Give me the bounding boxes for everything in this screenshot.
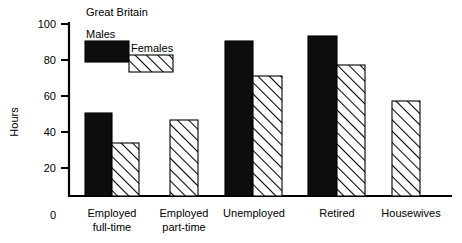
bar-females-employed-part-time	[170, 120, 198, 196]
legend-label-males: Males	[86, 28, 116, 40]
bar-males-employed-full-time	[85, 113, 112, 196]
bar-chart: Great Britain 100 80 60 40 20 0 Hours Ma…	[0, 0, 462, 243]
chart-svg: Great Britain 100 80 60 40 20 0 Hours Ma…	[0, 0, 462, 243]
legend-swatch-females	[129, 55, 173, 72]
cat-label-employed-part-time-line2: part-time	[162, 221, 205, 233]
cat-label-retired: Retired	[319, 207, 354, 219]
chart-title: Great Britain	[86, 6, 148, 18]
legend-swatch-males	[85, 41, 129, 62]
bar-females-employed-full-time	[112, 143, 139, 196]
y-tick-label-60: 60	[44, 90, 56, 102]
bar-females-housewives	[392, 101, 420, 196]
bar-females-unemployed	[253, 76, 282, 196]
bar-males-retired	[308, 36, 337, 196]
y-tick-label-40: 40	[44, 126, 56, 138]
bar-group-employed-part-time	[170, 120, 198, 196]
bar-group-housewives	[392, 101, 420, 196]
cat-label-unemployed: Unemployed	[223, 207, 285, 219]
y-tick-label-80: 80	[44, 54, 56, 66]
cat-label-employed-full-time-line2: full-time	[93, 221, 132, 233]
y-axis-title: Hours	[8, 107, 20, 137]
y-tick-label-20: 20	[44, 162, 56, 174]
bar-males-unemployed	[225, 41, 253, 196]
cat-label-housewives: Housewives	[381, 207, 441, 219]
cat-label-employed-part-time-line1: Employed	[160, 207, 209, 219]
cat-label-employed-full-time-line1: Employed	[88, 207, 137, 219]
y-tick-label-100: 100	[38, 18, 56, 30]
legend-label-females: Females	[131, 42, 174, 54]
bar-females-retired	[337, 65, 365, 196]
y-tick-label-0: 0	[50, 209, 56, 221]
